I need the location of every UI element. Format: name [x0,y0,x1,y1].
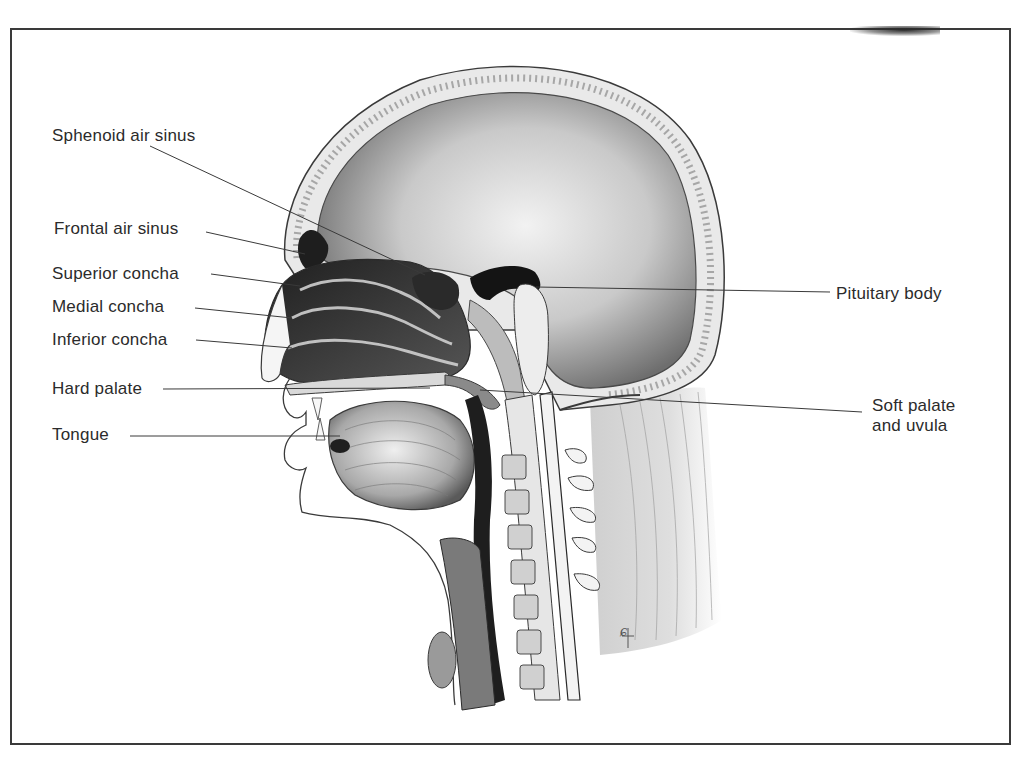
thyroid [428,632,456,688]
label-superior-concha: Superior concha [52,264,179,284]
label-hard-palate: Hard palate [52,379,142,399]
label-soft-palate-line-1: Soft palate [872,396,955,416]
label-inferior-concha: Inferior concha [52,330,167,350]
label-soft-palate-and-uvula: Soft palate and uvula [872,396,955,436]
label-soft-palate-line-2: and uvula [872,416,955,436]
label-sphenoid-air-sinus: Sphenoid air sinus [52,126,195,146]
label-frontal-air-sinus: Frontal air sinus [54,219,178,239]
cervical-spine [502,392,600,700]
label-medial-concha: Medial concha [52,297,164,317]
label-tongue: Tongue [52,425,109,445]
head-sagittal-illustration: ɕ [0,0,1029,763]
label-pituitary-body: Pituitary body [836,284,942,304]
neck-soft-tissue [590,387,722,655]
